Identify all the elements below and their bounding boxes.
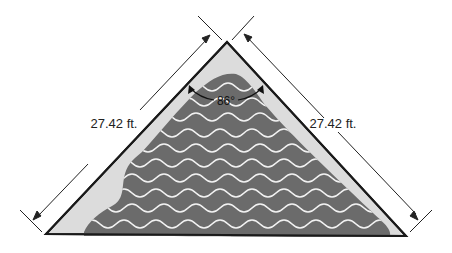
right-arrow-bottom <box>410 211 418 220</box>
left-arrow-top <box>202 35 210 43</box>
apex-angle-label: 86° <box>217 94 235 108</box>
left-tick-top <box>198 16 222 40</box>
left-side-length-label: 27.42 ft. <box>91 116 138 131</box>
pool-diagram: 86° 27.42 ft. 27.42 ft. <box>0 0 452 253</box>
left-arrow-bottom <box>33 211 41 220</box>
right-side-length-label: 27.42 ft. <box>310 116 357 131</box>
